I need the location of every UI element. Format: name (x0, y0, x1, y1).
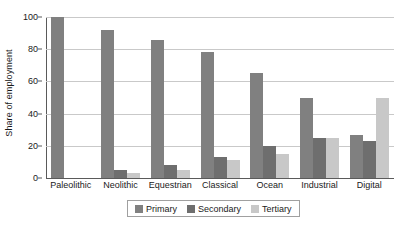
bar-group-equestrian (145, 17, 195, 178)
bar-classical-tertiary (227, 160, 240, 178)
legend-swatch-icon-tertiary (251, 205, 259, 213)
bar-group-industrial (295, 17, 345, 178)
legend-label-primary: Primary (146, 204, 177, 214)
bar-industrial-secondary (313, 138, 326, 178)
y-tick-mark-20 (38, 145, 42, 146)
bar-digital-primary (350, 135, 363, 178)
bar-group-neolithic (96, 17, 146, 178)
bar-classical-secondary (214, 157, 227, 178)
y-tick-label-80: 80 (28, 44, 38, 54)
y-axis-tick-labels: 020406080100 (18, 11, 42, 184)
y-tick-mark-40 (38, 113, 42, 114)
x-tick-label-equestrian: Equestrian (145, 180, 195, 196)
bar-digital-secondary (363, 141, 376, 178)
y-tick-mark-100 (38, 17, 42, 18)
gridline-0 (46, 178, 394, 179)
bar-equestrian-primary (151, 40, 164, 178)
legend-item-primary[interactable]: Primary (135, 204, 177, 214)
bar-ocean-tertiary (276, 154, 289, 178)
bar-chart: Share of employment 020406080100 Paleoli… (0, 0, 401, 229)
y-tick-mark-0 (38, 178, 42, 179)
bar-equestrian-tertiary (177, 170, 190, 178)
x-axis-tick-labels: PaleolithicNeolithicEquestrianClassicalO… (46, 180, 394, 196)
bar-industrial-tertiary (326, 138, 339, 178)
bar-classical-primary (201, 52, 214, 178)
x-tick-label-neolithic: Neolithic (96, 180, 146, 196)
y-tick-label-60: 60 (28, 76, 38, 86)
bar-neolithic-secondary (114, 170, 127, 178)
bar-group-classical (195, 17, 245, 178)
y-tick-label-40: 40 (28, 109, 38, 119)
plot-area (46, 17, 394, 178)
bar-group-paleolithic (46, 17, 96, 178)
legend-label-tertiary: Tertiary (262, 204, 292, 214)
bar-neolithic-primary (101, 30, 114, 178)
x-tick-label-digital: Digital (344, 180, 394, 196)
y-tick-label-20: 20 (28, 141, 38, 151)
bar-group-ocean (245, 17, 295, 178)
bar-group-digital (344, 17, 394, 178)
legend: PrimarySecondaryTertiary (127, 200, 300, 217)
legend-item-secondary[interactable]: Secondary (187, 204, 241, 214)
legend-swatch-icon-secondary (187, 205, 195, 213)
bar-paleolithic-primary (51, 17, 64, 178)
bar-ocean-secondary (263, 146, 276, 178)
bar-ocean-primary (250, 73, 263, 178)
bar-industrial-primary (300, 98, 313, 179)
legend-swatch-icon-primary (135, 205, 143, 213)
x-tick-label-classical: Classical (195, 180, 245, 196)
y-tick-mark-80 (38, 49, 42, 50)
x-tick-label-ocean: Ocean (245, 180, 295, 196)
x-tick-label-paleolithic: Paleolithic (46, 180, 96, 196)
legend-label-secondary: Secondary (198, 204, 241, 214)
bar-equestrian-secondary (164, 165, 177, 178)
bar-neolithic-tertiary (127, 173, 140, 178)
bars-layer (46, 17, 394, 178)
y-axis-title: Share of employment (0, 0, 18, 185)
y-tick-mark-60 (38, 81, 42, 82)
legend-item-tertiary[interactable]: Tertiary (251, 204, 292, 214)
bar-digital-tertiary (376, 98, 389, 179)
y-tick-label-100: 100 (23, 12, 38, 22)
x-tick-label-industrial: Industrial (295, 180, 345, 196)
y-axis-title-text: Share of employment (4, 49, 14, 136)
